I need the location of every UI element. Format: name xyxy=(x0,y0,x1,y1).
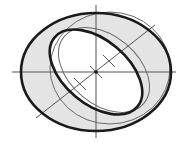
center-point xyxy=(94,70,98,74)
diagram-svg xyxy=(0,0,183,143)
ring-construction-diagram xyxy=(0,0,183,143)
